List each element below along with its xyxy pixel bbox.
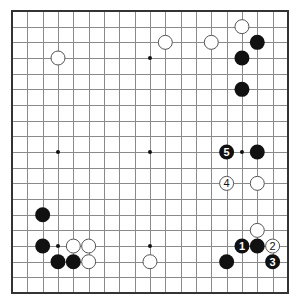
black-stone-disc (35, 207, 50, 222)
black-stone: 1 (234, 239, 249, 254)
black-stone-disc (250, 239, 265, 254)
move-number-label: 3 (270, 256, 276, 268)
black-stone (234, 82, 249, 97)
white-stone-disc (143, 255, 157, 269)
move-number-label: 5 (224, 146, 230, 158)
white-stone-disc (158, 35, 172, 49)
black-stone-disc (234, 82, 249, 97)
white-stone (250, 176, 264, 190)
white-stone (51, 51, 65, 65)
black-stone-disc (66, 254, 81, 269)
white-stone (158, 35, 172, 49)
black-stone (250, 239, 265, 254)
white-stone-disc (82, 239, 96, 253)
move-number-label: 2 (270, 240, 276, 252)
white-stone-disc (250, 176, 264, 190)
white-stone-disc (235, 20, 249, 34)
black-stone: 3 (265, 254, 280, 269)
black-stone-disc (250, 145, 265, 160)
black-stone (50, 254, 65, 269)
white-stone-disc (204, 35, 218, 49)
black-stone-disc (234, 51, 249, 66)
white-stone-disc (250, 223, 264, 237)
star-point (148, 244, 152, 248)
white-stone (250, 223, 264, 237)
stones-layer: 54123 (35, 20, 280, 270)
move-number-label: 1 (239, 240, 245, 252)
black-stone (35, 239, 50, 254)
white-stone-disc (66, 239, 80, 253)
star-point (148, 56, 152, 60)
black-stone: 5 (219, 145, 234, 160)
white-stone: 4 (220, 176, 234, 190)
white-stone (204, 35, 218, 49)
white-stone-disc (51, 51, 65, 65)
black-stone (35, 207, 50, 222)
move-number-label: 4 (224, 177, 230, 189)
white-stone (143, 255, 157, 269)
black-stone-disc (250, 35, 265, 50)
black-stone (234, 51, 249, 66)
white-stone-disc (82, 255, 96, 269)
star-point (56, 150, 60, 154)
white-stone (235, 20, 249, 34)
star-point (148, 150, 152, 154)
white-stone (66, 239, 80, 253)
black-stone (250, 35, 265, 50)
black-stone-disc (219, 254, 234, 269)
white-stone: 2 (266, 239, 280, 253)
star-point (240, 150, 244, 154)
star-point (56, 244, 60, 248)
black-stone (219, 254, 234, 269)
go-board[interactable]: 54123 (0, 0, 300, 306)
black-stone-disc (35, 239, 50, 254)
black-stone (250, 145, 265, 160)
black-stone-disc (50, 254, 65, 269)
white-stone (82, 239, 96, 253)
black-stone (66, 254, 81, 269)
white-stone (82, 255, 96, 269)
